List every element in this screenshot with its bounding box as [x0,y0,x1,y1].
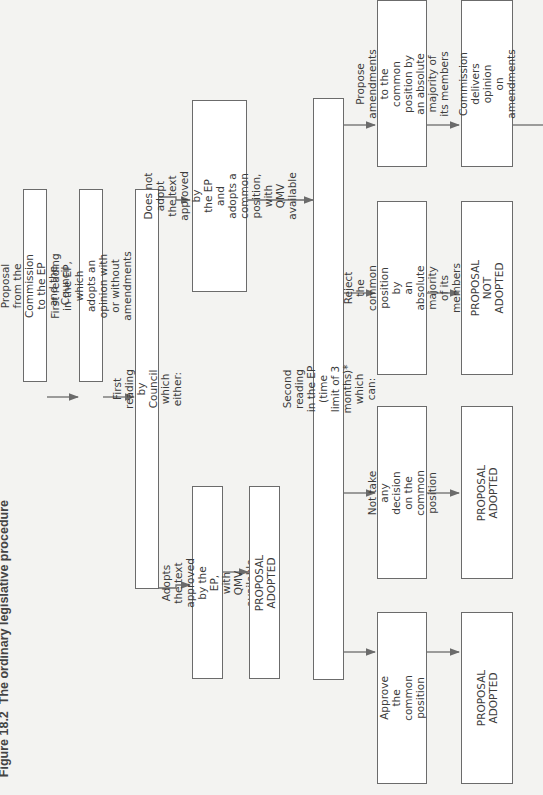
node-not-adopted: PROPOSAL NOT ADOPTED [461,201,513,375]
flowchart: Figure 18.2 The ordinary legislative pro… [0,0,543,795]
figure-number: Figure 18.2 [0,711,11,777]
node-does-not-adopt-label: Does not adopt the text approved by the … [142,171,298,221]
node-adopted-no-decision-label: PROPOSAL ADOPTED [475,464,499,520]
node-does-not-adopt: Does not adopt the text approved by the … [192,100,247,292]
node-adopted-first-label: PROPOSAL ADOPTED [253,554,277,610]
node-reject-common-label: Reject the common position by an absolut… [342,263,462,313]
node-adopted-no-decision: PROPOSAL ADOPTED [461,406,513,579]
figure-caption: The ordinary legislative procedure [0,500,11,704]
node-first-reading-council: First reading by Council which either: [135,189,159,589]
node-adopted-approve: PROPOSAL ADOPTED [461,612,513,784]
node-no-decision-label: Not take any decision on the common posi… [366,470,438,516]
node-commission-opinion-label: Commission delivers opinion on amendment… [457,49,517,118]
node-second-reading: Second reading in the EP (time limit of … [313,98,344,680]
node-adopts-text-label: Adopts the text approved by the EP, with… [160,558,256,608]
node-first-reading-council-label: First reading by Council which either: [111,369,183,409]
node-first-reading-ep: First reading in the EP, which adopts an… [79,189,103,382]
node-propose-amendments-label: Propose amendments to the common positio… [354,49,450,118]
node-adopted-first: PROPOSAL ADOPTED [249,486,280,679]
node-commission-opinion: Commission delivers opinion on amendment… [461,0,513,167]
node-reject-common: Reject the common position by an absolut… [377,201,427,375]
node-not-adopted-label: PROPOSAL NOT ADOPTED [469,260,505,316]
node-proposal: Proposal from the Commission to the EP a… [23,189,47,382]
node-approve-common: Approve the common position [377,612,427,784]
node-no-decision: Not take any decision on the common posi… [377,406,427,579]
node-first-reading-ep-label: First reading in the EP, which adopts an… [49,251,133,320]
node-adopts-text: Adopts the text approved by the EP, with… [192,486,223,679]
node-adopted-approve-label: PROPOSAL ADOPTED [475,670,499,726]
node-approve-common-label: Approve the common position [378,675,426,721]
node-propose-amendments: Propose amendments to the common positio… [377,0,427,167]
node-second-reading-label: Second reading in the EP (time limit of … [281,365,377,414]
